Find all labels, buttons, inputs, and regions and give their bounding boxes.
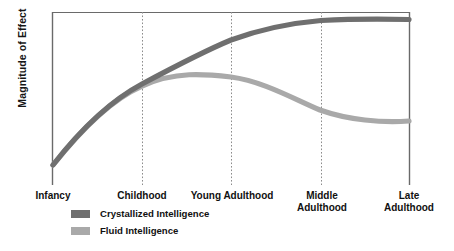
- legend-swatch-icon-fluid: [71, 227, 90, 235]
- legend-item-crystallized-intelligence: Crystallized Intelligence: [71, 206, 321, 221]
- chart-legend: Crystallized Intelligence Fluid Intellig…: [71, 206, 321, 240]
- xtick-label-childhood: Childhood: [101, 190, 183, 202]
- legend-label-fluid-intelligence: Fluid Intelligence: [100, 225, 178, 236]
- legend-label-crystallized-intelligence: Crystallized Intelligence: [100, 208, 209, 219]
- series-line-crystallized-intelligence: [53, 19, 409, 165]
- xtick-label-young-adulthood: Young Adulthood: [176, 190, 288, 202]
- legend-swatch-icon-crystallized: [71, 210, 90, 218]
- chart-figure: Magnitude of Effect Infancy Childhood Yo…: [0, 0, 454, 251]
- xtick-label-infancy: Infancy: [13, 190, 93, 202]
- series-line-fluid-intelligence: [53, 75, 409, 165]
- legend-item-fluid-intelligence: Fluid Intelligence: [71, 223, 321, 238]
- xtick-label-late-adulthood: Late Adulthood: [365, 190, 453, 213]
